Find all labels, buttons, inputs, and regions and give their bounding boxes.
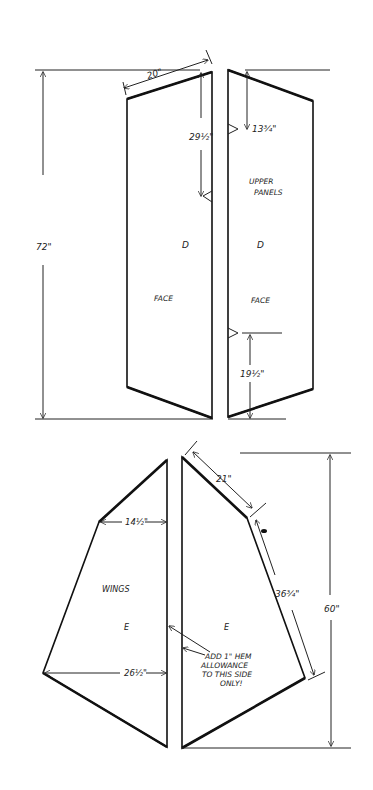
hem-note-arrow-left: [169, 626, 210, 652]
label-19-half: 19½": [240, 369, 264, 379]
label-72: 72": [36, 242, 52, 252]
extension-line: [206, 50, 212, 64]
left-wing-panel-e: [43, 460, 167, 747]
hem-note-line1: ADD 1" HEM: [204, 652, 252, 661]
left-wing-letter: E: [124, 623, 130, 632]
extension-line: [185, 441, 197, 455]
right-wing-top-edge: [182, 457, 247, 518]
upper-panels-title-line1: UPPER: [249, 177, 274, 186]
notch-marker: [203, 191, 212, 202]
left-face-label: FACE: [154, 294, 173, 303]
left-wing-top-edge: [99, 460, 167, 522]
pattern-diagram: 72" 20" 29½" 13¾" 19½" UPPER PANELS D D …: [0, 0, 373, 790]
left-face-panel-d: [127, 72, 212, 418]
extension-line: [308, 672, 325, 680]
right-wing-bottom-edge: [182, 678, 305, 748]
wings-title: WINGS: [102, 585, 130, 594]
right-wing-letter: E: [224, 623, 230, 632]
label-29-half: 29½": [189, 132, 213, 142]
hem-note-line3: TO THIS SIDE: [202, 670, 252, 679]
upper-panels-group: 72" 20" 29½" 13¾" 19½" UPPER PANELS D D …: [35, 50, 330, 419]
extension-line: [123, 82, 126, 95]
hem-note-line2: ALLOWANCE: [200, 661, 248, 670]
extension-line: [250, 503, 266, 517]
label-14-half: 14½": [125, 517, 148, 527]
label-21: 21": [216, 474, 232, 484]
notch-marker: [228, 328, 238, 338]
label-20: 20": [146, 67, 164, 81]
notch-marker: [228, 124, 238, 134]
label-13-three-quarter: 13¾": [252, 124, 276, 134]
top-width-20-dimension: [124, 60, 208, 88]
left-panel-top-edge: [127, 72, 212, 99]
right-panel-letter: D: [257, 240, 264, 250]
upper-panels-title-line2: PANELS: [254, 188, 283, 197]
right-panel-bottom-edge: [228, 389, 313, 417]
left-panel-letter: D: [182, 240, 189, 250]
label-60: 60": [324, 604, 340, 614]
right-panel-top-edge: [228, 70, 313, 101]
label-26-half: 26½": [124, 668, 147, 678]
hem-note-arrow-right: [183, 648, 205, 655]
right-wing-panel-e: [182, 457, 305, 748]
side-edge-36-dimension-bottom: [292, 610, 314, 675]
label-36-three-quarter: 36¾": [275, 589, 299, 599]
wings-group: 14½" 26½" 21" 36¾" 60" WINGS E E ADD 1" …: [43, 441, 351, 748]
hem-note-line4: ONLY!: [220, 679, 243, 688]
right-face-panel-d: [228, 70, 313, 417]
left-panel-bottom-edge: [127, 387, 212, 418]
right-face-label: FACE: [251, 296, 270, 305]
left-wing-bottom-edge: [43, 673, 167, 747]
ink-dot: [261, 529, 267, 533]
